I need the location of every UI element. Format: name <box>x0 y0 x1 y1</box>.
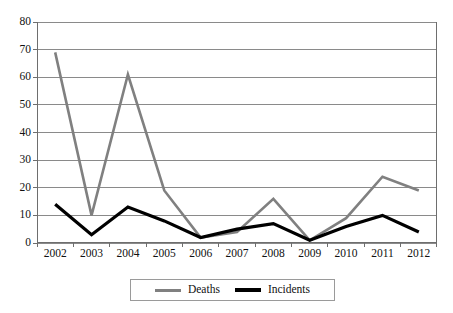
plot-area <box>37 22 437 243</box>
x-tick-label: 2012 <box>407 248 430 260</box>
line-swatch-black-icon <box>235 288 261 292</box>
y-tick-label: 30 <box>5 154 31 166</box>
legend-label-deaths: Deaths <box>188 284 220 296</box>
legend-label-incidents: Incidents <box>268 284 310 296</box>
y-tick-label: 80 <box>5 16 31 28</box>
legend-item-deaths: Deaths <box>155 284 220 296</box>
series-line-incidents <box>55 204 419 240</box>
x-tick-label: 2010 <box>335 248 358 260</box>
x-tick-label: 2009 <box>298 248 321 260</box>
y-tick-label: 60 <box>5 72 31 84</box>
legend-item-incidents: Incidents <box>235 284 310 296</box>
x-tick-label: 2002 <box>44 248 67 260</box>
y-tick-label: 40 <box>5 127 31 139</box>
x-tick-label: 2006 <box>189 248 212 260</box>
x-tick-label: 2008 <box>262 248 285 260</box>
x-tick-label: 2003 <box>80 248 103 260</box>
line-chart: 01020304050607080 2002200320042005200620… <box>0 0 453 313</box>
plot-svg <box>37 22 437 243</box>
chart-legend: Deaths Incidents <box>130 279 335 301</box>
line-swatch-gray-icon <box>155 289 181 292</box>
y-tick-label: 10 <box>5 210 31 222</box>
y-tick-label: 50 <box>5 99 31 111</box>
series-line-deaths <box>55 52 419 240</box>
x-axis: 2002200320042005200620072008200920102011… <box>37 248 437 266</box>
x-tick-label: 2011 <box>371 248 394 260</box>
y-tick-label: 0 <box>5 237 31 249</box>
y-tick-label: 20 <box>5 182 31 194</box>
y-tick-label: 70 <box>5 44 31 56</box>
x-tick-label: 2005 <box>153 248 176 260</box>
x-tick-label: 2007 <box>226 248 249 260</box>
y-axis: 01020304050607080 <box>0 0 31 313</box>
x-tick-label: 2004 <box>116 248 139 260</box>
